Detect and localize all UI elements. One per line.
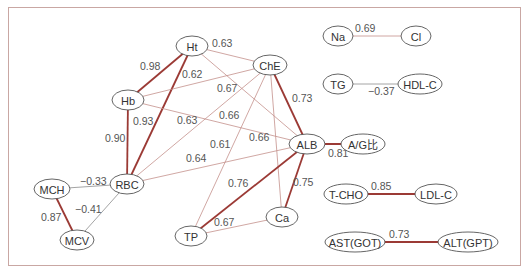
node-ca: Ca bbox=[266, 207, 298, 227]
edge-value-label: 0.90 bbox=[105, 132, 126, 144]
node-che: ChE bbox=[253, 55, 287, 75]
node-label: AST(GOT) bbox=[329, 237, 382, 249]
edge-value-label: 0.85 bbox=[371, 180, 392, 192]
edge-value-label: −0.33 bbox=[80, 175, 107, 187]
edge-value-label: 0.87 bbox=[41, 211, 62, 223]
node-label: RBC bbox=[115, 179, 138, 191]
node-label: LDL-C bbox=[420, 189, 452, 201]
edge-value-label: 0.62 bbox=[182, 68, 203, 80]
node-label: A/G比 bbox=[348, 139, 378, 151]
node-rbc: RBC bbox=[110, 174, 144, 194]
node-label: Cl bbox=[411, 31, 421, 43]
edge-value-label: −0.37 bbox=[368, 85, 395, 97]
node-ast: AST(GOT) bbox=[325, 232, 385, 252]
node-mcv: MCV bbox=[60, 230, 94, 250]
edge-hb-rbc bbox=[127, 100, 128, 184]
node-label: MCH bbox=[39, 184, 64, 196]
node-na: Na bbox=[323, 26, 353, 46]
node-label: T-CHO bbox=[329, 189, 364, 201]
node-hb: Hb bbox=[112, 90, 144, 110]
edge-rbc-alb bbox=[127, 144, 307, 184]
node-label: Na bbox=[331, 31, 346, 43]
edge-value-label: 0.64 bbox=[186, 152, 207, 164]
edge-value-label: 0.75 bbox=[293, 176, 314, 188]
edge-value-label: 0.66 bbox=[219, 109, 240, 121]
node-alb: ALB bbox=[289, 134, 325, 154]
node-hdl: HDL-C bbox=[398, 74, 442, 94]
node-label: Hb bbox=[121, 95, 135, 107]
edge-value-label: 0.98 bbox=[140, 60, 161, 72]
edge-labels-layer: 0.980.930.900.630.620.670.660.630.640.61… bbox=[41, 22, 410, 240]
node-tp: TP bbox=[175, 226, 207, 246]
edge-value-label: 0.67 bbox=[217, 82, 238, 94]
node-label: Ht bbox=[187, 41, 198, 53]
node-label: MCV bbox=[65, 235, 90, 247]
node-ldl: LDL-C bbox=[415, 184, 457, 204]
edge-value-label: 0.63 bbox=[177, 114, 198, 126]
edge-value-label: 0.76 bbox=[228, 177, 249, 189]
node-ag: A/G比 bbox=[341, 134, 385, 154]
edge-value-label: 0.73 bbox=[292, 92, 313, 104]
node-alt: ALT(GPT) bbox=[438, 232, 498, 252]
edge-value-label: 0.69 bbox=[355, 22, 376, 34]
edge-value-label: −0.41 bbox=[75, 203, 102, 215]
edge-value-label: 0.66 bbox=[249, 131, 270, 143]
node-cl: Cl bbox=[401, 26, 431, 46]
node-label: TG bbox=[330, 79, 345, 91]
node-label: ALB bbox=[297, 139, 318, 151]
correlation-network: 0.980.930.900.630.620.670.660.630.640.61… bbox=[0, 0, 531, 280]
node-label: ChE bbox=[259, 60, 280, 72]
node-label: HDL-C bbox=[403, 79, 437, 91]
edge-value-label: 0.63 bbox=[212, 37, 233, 49]
edge-value-label: 0.67 bbox=[214, 216, 235, 228]
node-ht: Ht bbox=[176, 36, 208, 56]
edge-value-label: 0.93 bbox=[133, 115, 154, 127]
node-mch: MCH bbox=[34, 179, 70, 199]
node-label: ALT(GPT) bbox=[443, 237, 492, 249]
node-tg: TG bbox=[323, 74, 353, 94]
node-label: TP bbox=[184, 231, 198, 243]
edge-value-label: 0.73 bbox=[389, 228, 410, 240]
node-tcho: T-CHO bbox=[324, 184, 368, 204]
edge-ht-alb bbox=[192, 46, 307, 144]
node-label: Ca bbox=[275, 212, 290, 224]
edge-value-label: 0.61 bbox=[210, 138, 231, 150]
